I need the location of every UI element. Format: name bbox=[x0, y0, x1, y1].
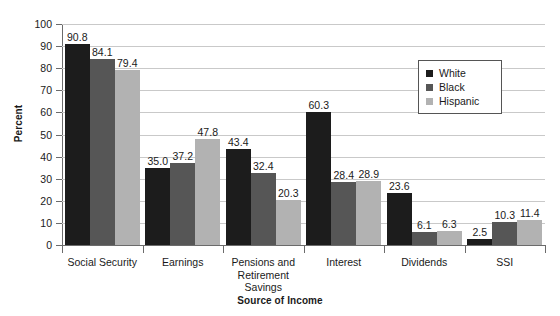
y-axis-tick-label: 30 bbox=[22, 174, 52, 184]
bar-value-label: 20.3 bbox=[270, 188, 307, 199]
bar bbox=[331, 182, 356, 245]
x-axis-category-label-line: Earnings bbox=[137, 256, 230, 269]
y-axis-tick-label: 0 bbox=[22, 240, 52, 250]
x-axis-tick bbox=[223, 245, 224, 253]
bar-value-label: 23.6 bbox=[381, 181, 418, 192]
bar bbox=[276, 200, 301, 245]
y-axis-tick-label: 60 bbox=[22, 107, 52, 117]
bar bbox=[412, 232, 437, 245]
y-axis-tick-label: 90 bbox=[22, 41, 52, 51]
bar-value-label: 84.1 bbox=[84, 47, 121, 58]
y-axis-tick-label: 50 bbox=[22, 130, 52, 140]
y-axis-tick-label: 40 bbox=[22, 152, 52, 162]
x-axis-category-label-line: Retirement bbox=[217, 269, 310, 282]
legend: White Black Hispanic bbox=[418, 60, 502, 114]
bar bbox=[251, 173, 276, 245]
x-axis-tick bbox=[384, 245, 385, 253]
bar bbox=[115, 70, 140, 245]
bar-value-label: 32.4 bbox=[245, 161, 282, 172]
legend-swatch-hispanic-icon bbox=[426, 98, 433, 105]
gridline bbox=[62, 24, 545, 25]
x-axis-tick bbox=[143, 245, 144, 253]
bar bbox=[517, 220, 542, 245]
y-axis-tick-label-wrap: 10 bbox=[20, 218, 52, 228]
y-axis-tick-label: 20 bbox=[22, 196, 52, 206]
x-axis-tick bbox=[545, 245, 546, 253]
x-axis-title: Source of Income bbox=[0, 295, 560, 306]
y-axis-tick-label-wrap: 60 bbox=[20, 107, 52, 117]
bar-value-label: 79.4 bbox=[109, 58, 146, 69]
y-axis-tick-label: 100 bbox=[22, 19, 52, 29]
bar-value-label: 90.8 bbox=[59, 32, 96, 43]
x-axis-category-label-line: Interest bbox=[298, 256, 391, 269]
bar bbox=[467, 239, 492, 245]
y-axis-tick-label-wrap: 90 bbox=[20, 41, 52, 51]
x-axis-category-label-line: Social Security bbox=[56, 256, 149, 269]
x-axis-category-label: Interest bbox=[298, 256, 391, 269]
gridline bbox=[62, 46, 545, 47]
legend-item-white: White bbox=[426, 66, 492, 80]
bar bbox=[90, 59, 115, 245]
y-axis-tick-label-wrap: 30 bbox=[20, 174, 52, 184]
bar-chart: Percent 0102030405060708090100 90.884.17… bbox=[0, 0, 560, 316]
x-axis-category-label-line: Dividends bbox=[378, 256, 471, 269]
legend-swatch-black-icon bbox=[426, 84, 433, 91]
bar-value-label: 11.4 bbox=[511, 208, 548, 219]
x-axis-category-label: Social Security bbox=[56, 256, 149, 269]
y-axis-tick-label-wrap: 20 bbox=[20, 196, 52, 206]
y-axis-tick-label-wrap: 0 bbox=[20, 240, 52, 250]
legend-label-black: Black bbox=[439, 81, 465, 93]
bar-value-label: 60.3 bbox=[300, 100, 337, 111]
x-axis-category-label: Earnings bbox=[137, 256, 230, 269]
x-axis-category-label-line: Pensions and bbox=[217, 256, 310, 269]
bar-value-label: 37.2 bbox=[164, 151, 201, 162]
legend-swatch-white-icon bbox=[426, 70, 433, 77]
x-axis-category-label: Dividends bbox=[378, 256, 471, 269]
x-axis-category-label: Pensions andRetirementSavings bbox=[217, 256, 310, 294]
x-axis-category-label-line: SSI bbox=[459, 256, 552, 269]
legend-label-white: White bbox=[439, 67, 466, 79]
y-axis-tick-label: 80 bbox=[22, 63, 52, 73]
bar bbox=[65, 44, 90, 245]
y-axis-tick-label-wrap: 80 bbox=[20, 63, 52, 73]
x-axis-category-label-line: Savings bbox=[217, 281, 310, 294]
bar-value-label: 28.9 bbox=[350, 169, 387, 180]
y-axis-tick-label-wrap: 50 bbox=[20, 130, 52, 140]
bar bbox=[437, 231, 462, 245]
y-axis-tick-label: 70 bbox=[22, 85, 52, 95]
bar bbox=[356, 181, 381, 245]
x-axis-tick bbox=[62, 245, 63, 253]
legend-label-hispanic: Hispanic bbox=[439, 95, 479, 107]
bar-value-label: 43.4 bbox=[220, 137, 257, 148]
legend-item-hispanic: Hispanic bbox=[426, 94, 492, 108]
y-axis-tick-label-wrap: 100 bbox=[20, 19, 52, 29]
bar-value-label: 2.5 bbox=[461, 227, 498, 238]
x-axis-category-label: SSI bbox=[459, 256, 552, 269]
y-axis-tick-label-wrap: 70 bbox=[20, 85, 52, 95]
legend-item-black: Black bbox=[426, 80, 492, 94]
x-axis-tick bbox=[465, 245, 466, 253]
x-axis-tick bbox=[304, 245, 305, 253]
bar bbox=[145, 168, 170, 245]
bar bbox=[170, 163, 195, 245]
y-axis-tick-label: 10 bbox=[22, 218, 52, 228]
y-axis-tick-label-wrap: 40 bbox=[20, 152, 52, 162]
